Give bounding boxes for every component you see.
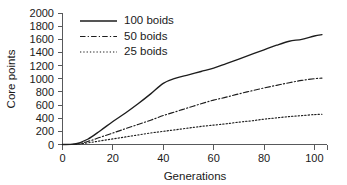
series-line-50-boids [63, 78, 322, 144]
y-tick-label: 2000 [30, 7, 54, 19]
y-axis-ticks: 0200400600800100012001400160018002000 [30, 7, 63, 151]
y-tick-label: 800 [36, 86, 54, 98]
chart-legend: 100 boids50 boids25 boids [80, 14, 174, 57]
y-tick-label: 0 [48, 139, 54, 151]
series-line-100-boids [63, 35, 322, 145]
axes-group [63, 13, 328, 145]
y-axis-title: Core points [5, 49, 17, 108]
y-tick-label: 1600 [30, 33, 54, 45]
x-tick-label: 100 [305, 152, 323, 164]
x-tick-label: 40 [157, 152, 169, 164]
y-tick-label: 1000 [30, 73, 54, 85]
line-chart: 0200400600800100012001400160018002000 02… [0, 0, 347, 185]
y-tick-label: 1400 [30, 46, 54, 58]
y-tick-label: 1800 [30, 20, 54, 32]
legend-label: 100 boids [124, 14, 174, 26]
series-group [63, 35, 322, 145]
y-tick-label: 200 [36, 125, 54, 137]
x-axis-ticks: 020406080100 [59, 145, 327, 165]
x-tick-label: 20 [107, 152, 119, 164]
x-axis-title: Generations [164, 170, 227, 182]
y-tick-label: 400 [36, 112, 54, 124]
y-tick-label: 1200 [30, 60, 54, 72]
chart-figure: 0200400600800100012001400160018002000 02… [0, 0, 347, 185]
x-tick-label: 60 [208, 152, 220, 164]
x-tick-label: 80 [258, 152, 270, 164]
y-tick-label: 600 [36, 99, 54, 111]
legend-label: 25 boids [124, 45, 168, 57]
legend-label: 50 boids [124, 30, 168, 42]
x-tick-label: 0 [59, 152, 65, 164]
